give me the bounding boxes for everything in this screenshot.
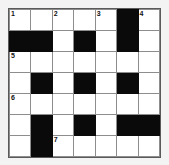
cell-number: 2 bbox=[54, 10, 58, 18]
crossword-cell[interactable]: 2 bbox=[52, 10, 73, 31]
crossword-puzzle: 1234567 bbox=[0, 0, 169, 165]
crossword-block-cell bbox=[74, 115, 95, 136]
crossword-cell[interactable]: 3 bbox=[95, 10, 116, 31]
crossword-cell[interactable] bbox=[117, 94, 138, 115]
crossword-grid: 1234567 bbox=[9, 9, 160, 157]
crossword-cell[interactable] bbox=[31, 94, 52, 115]
crossword-cell[interactable] bbox=[52, 31, 73, 52]
crossword-cell[interactable] bbox=[95, 94, 116, 115]
crossword-row: 1234 bbox=[10, 10, 160, 31]
crossword-block-cell bbox=[31, 115, 52, 136]
crossword-cell[interactable] bbox=[95, 136, 116, 157]
cell-number: 5 bbox=[11, 52, 15, 60]
crossword-row: 5 bbox=[10, 52, 160, 73]
crossword-cell[interactable]: 6 bbox=[10, 94, 31, 115]
cell-number: 7 bbox=[54, 136, 58, 144]
crossword-cell[interactable] bbox=[138, 52, 159, 73]
crossword-block-cell bbox=[117, 31, 138, 52]
crossword-block-cell bbox=[117, 10, 138, 31]
crossword-block-cell bbox=[31, 31, 52, 52]
crossword-cell[interactable] bbox=[138, 73, 159, 94]
crossword-cell[interactable] bbox=[52, 115, 73, 136]
crossword-cell[interactable] bbox=[10, 136, 31, 157]
crossword-cell[interactable] bbox=[95, 115, 116, 136]
crossword-row bbox=[10, 73, 160, 94]
crossword-row bbox=[10, 115, 160, 136]
crossword-row bbox=[10, 31, 160, 52]
crossword-cell[interactable] bbox=[138, 94, 159, 115]
crossword-cell[interactable] bbox=[52, 94, 73, 115]
crossword-cell[interactable] bbox=[31, 52, 52, 73]
crossword-cell[interactable] bbox=[95, 31, 116, 52]
crossword-cell[interactable] bbox=[95, 52, 116, 73]
crossword-block-cell bbox=[31, 73, 52, 94]
crossword-cell[interactable] bbox=[74, 10, 95, 31]
crossword-cell[interactable] bbox=[138, 31, 159, 52]
crossword-cell[interactable] bbox=[117, 52, 138, 73]
crossword-row: 6 bbox=[10, 94, 160, 115]
crossword-cell[interactable] bbox=[52, 52, 73, 73]
crossword-cell[interactable] bbox=[31, 10, 52, 31]
cell-number: 4 bbox=[140, 10, 144, 18]
crossword-cell[interactable] bbox=[117, 136, 138, 157]
crossword-cell[interactable] bbox=[74, 94, 95, 115]
crossword-cell[interactable]: 1 bbox=[10, 10, 31, 31]
crossword-cell[interactable] bbox=[74, 136, 95, 157]
crossword-block-cell bbox=[138, 115, 159, 136]
crossword-cell[interactable] bbox=[95, 73, 116, 94]
crossword-cell[interactable]: 7 bbox=[52, 136, 73, 157]
crossword-block-cell bbox=[74, 31, 95, 52]
crossword-cell[interactable] bbox=[138, 136, 159, 157]
crossword-cell[interactable] bbox=[10, 115, 31, 136]
cell-number: 6 bbox=[11, 94, 15, 102]
crossword-cell[interactable]: 4 bbox=[138, 10, 159, 31]
crossword-cell[interactable]: 5 bbox=[10, 52, 31, 73]
cell-number: 1 bbox=[11, 10, 15, 18]
crossword-block-cell bbox=[74, 73, 95, 94]
crossword-cell[interactable] bbox=[52, 73, 73, 94]
crossword-block-cell bbox=[117, 73, 138, 94]
crossword-grid-frame: 1234567 bbox=[8, 8, 161, 158]
cell-number: 3 bbox=[97, 10, 101, 18]
crossword-row: 7 bbox=[10, 136, 160, 157]
crossword-cell[interactable] bbox=[10, 73, 31, 94]
crossword-block-cell bbox=[31, 136, 52, 157]
crossword-block-cell bbox=[10, 31, 31, 52]
crossword-grid-body: 1234567 bbox=[10, 10, 160, 157]
crossword-cell[interactable] bbox=[74, 52, 95, 73]
crossword-block-cell bbox=[117, 115, 138, 136]
